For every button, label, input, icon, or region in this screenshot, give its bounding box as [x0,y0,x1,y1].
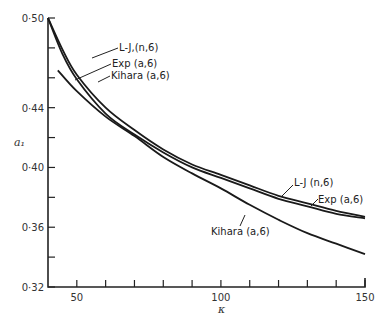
label-right-exp: Exp (a,6) [318,194,363,205]
axis-ticks [48,18,365,287]
curve-exp-a-6 [48,18,365,218]
leader-line-upper-kihara [98,76,110,82]
x-tick-label: 50 [70,292,83,303]
curves [48,18,365,254]
leader-line-upper-lj [92,48,118,58]
y-tick-label: 0·50 [22,13,44,24]
y-tick-label: 0·40 [22,162,44,173]
label-upper-kihara: Kihara (a,6) [111,70,170,81]
leader-line-upper-exp [75,64,111,80]
leader-line-right-lj [282,185,293,196]
label-lower-kihara: Kihara (a,6) [211,226,270,237]
label-upper-lj: L-J,(n,6) [119,42,158,53]
label-upper-exp: Exp (a,6) [112,58,157,69]
y-axis-label: a₁ [14,136,25,149]
x-tick-label: 100 [211,292,230,303]
label-right-lj: L-J (n,6) [294,177,333,188]
leader-line-lower-kihara [240,215,245,226]
y-tick-label: 0·44 [22,103,44,114]
x-tick-label: 150 [355,292,374,303]
line-chart: 501001500·320·360·400·440·50 L-J,(n,6) E… [0,0,383,327]
x-axis-label: κ [217,303,226,316]
y-tick-label: 0·36 [22,222,44,233]
y-tick-label: 0·32 [22,282,44,293]
axes-frame [48,18,365,287]
axis-tick-labels: 501001500·320·360·400·440·50 [22,13,375,303]
